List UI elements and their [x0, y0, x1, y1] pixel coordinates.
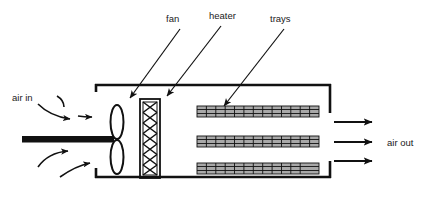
- label-fan: fan: [166, 13, 179, 24]
- label-heater: heater: [209, 10, 236, 21]
- tray-row: [197, 163, 319, 174]
- leader-line-trays: [224, 29, 284, 106]
- label-trays: trays: [270, 13, 291, 24]
- tray-row: [197, 136, 319, 147]
- heater: [140, 99, 160, 178]
- air-outlet-arrows: [334, 122, 372, 161]
- label-air-out: air out: [387, 137, 414, 148]
- fan-shaft: [22, 136, 114, 143]
- tray-dryer-diagram: fan heater trays air in: [0, 0, 433, 204]
- diagram-canvas: fan heater trays air in: [0, 0, 433, 204]
- label-air-in: air in: [12, 92, 33, 103]
- tray-row: [197, 106, 319, 117]
- leader-line-fan: [130, 29, 180, 98]
